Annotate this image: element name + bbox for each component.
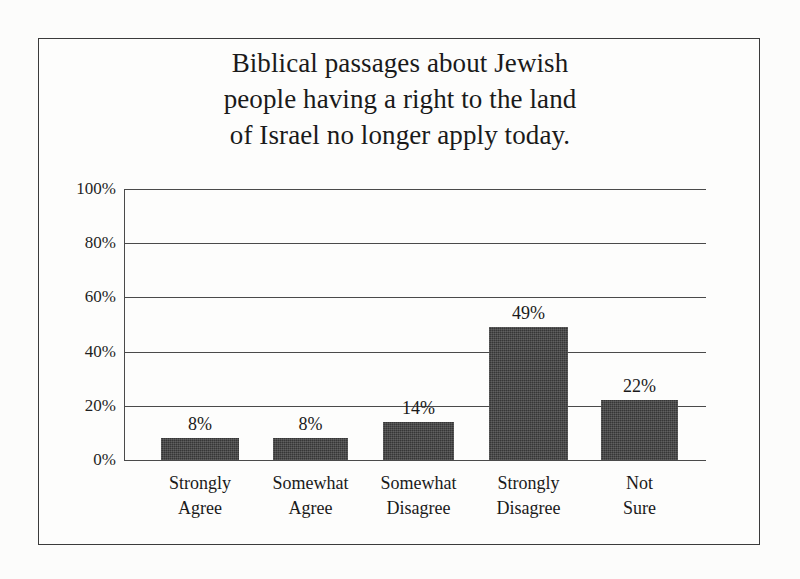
bar	[273, 438, 348, 460]
chart-title-line-2: people having a right to the land	[39, 81, 761, 117]
gridline-0	[124, 460, 706, 461]
bar-group: 8%	[161, 189, 239, 460]
chart-title: Biblical passages about Jewish people ha…	[39, 45, 761, 153]
bar-group: 22%	[601, 189, 678, 460]
bar-group: 49%	[489, 189, 568, 460]
bar	[601, 400, 678, 460]
y-axis-label-80: 80%	[36, 233, 116, 253]
y-axis-label-100: 100%	[36, 179, 116, 199]
plot-area: 8%8%14%49%22%	[124, 189, 706, 460]
y-axis-label-20: 20%	[36, 396, 116, 416]
bar-value-label: 8%	[188, 414, 212, 435]
y-axis-label-40: 40%	[36, 342, 116, 362]
bar-value-label: 8%	[299, 414, 323, 435]
y-axis-label-60: 60%	[36, 287, 116, 307]
y-axis-line	[124, 189, 125, 460]
chart-title-line-3: of Israel no longer apply today.	[39, 117, 761, 153]
bar	[161, 438, 239, 460]
category-label-line-2: Sure	[570, 496, 710, 521]
bar-value-label: 14%	[402, 398, 435, 419]
figure-frame: Biblical passages about Jewish people ha…	[38, 38, 760, 545]
bar-group: 14%	[383, 189, 454, 460]
bar-group: 8%	[273, 189, 348, 460]
bar	[489, 327, 568, 460]
x-axis-category-label: NotSure	[570, 471, 710, 521]
category-label-line-1: Not	[570, 471, 710, 496]
y-axis-label-0: 0%	[36, 450, 116, 470]
bar-value-label: 49%	[512, 303, 545, 324]
scanned-page: Biblical passages about Jewish people ha…	[0, 0, 800, 579]
bar	[383, 422, 454, 460]
chart-title-line-1: Biblical passages about Jewish	[39, 45, 761, 81]
bar-value-label: 22%	[623, 376, 656, 397]
